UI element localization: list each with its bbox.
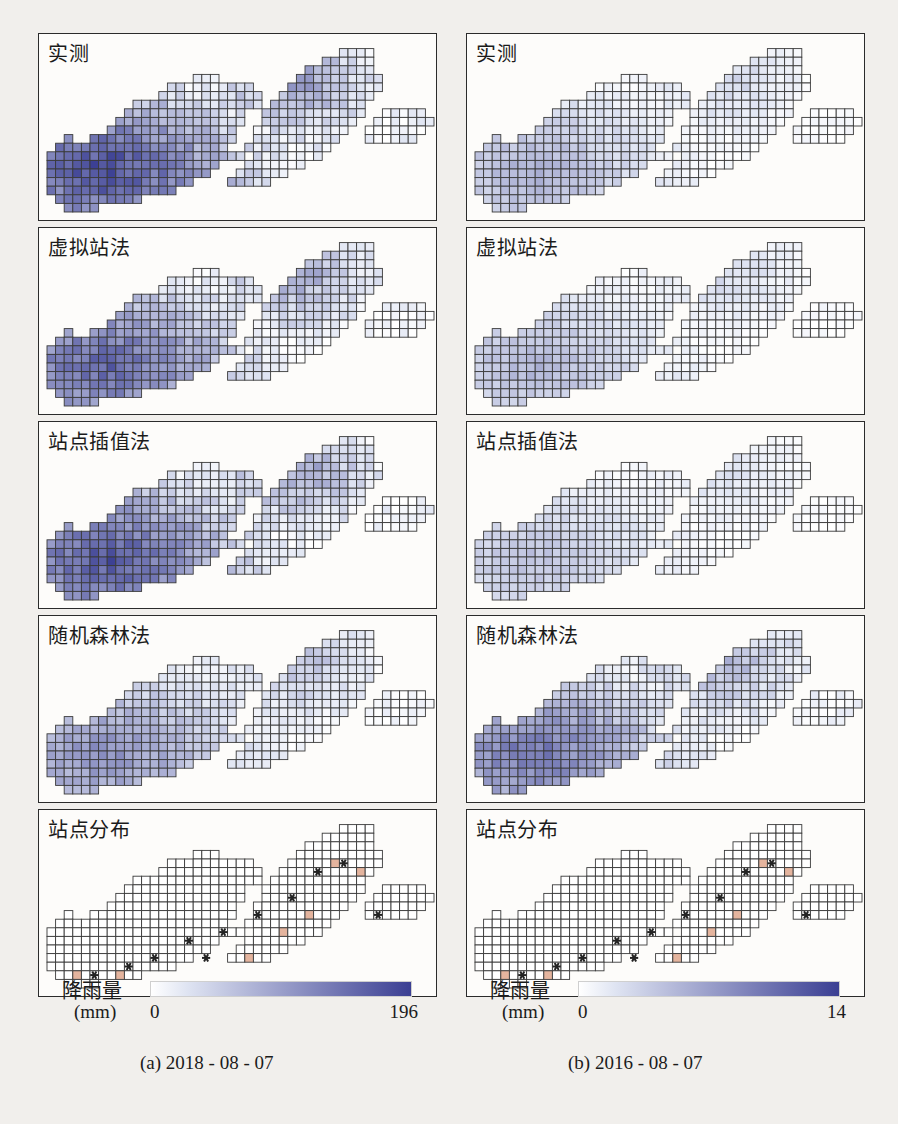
grid-cell (202, 268, 211, 277)
grid-cell (501, 372, 510, 381)
grid-cell (99, 329, 108, 338)
grid-cell (828, 691, 837, 700)
grid-cell (802, 320, 811, 329)
grid-cell (759, 708, 768, 717)
grid-cell (690, 117, 699, 126)
grid-cell (262, 372, 271, 381)
grid-cell (664, 303, 673, 312)
grid-cell (322, 911, 331, 920)
grid-cell (561, 583, 570, 592)
grid-cell (107, 363, 116, 372)
grid-cell (296, 717, 305, 726)
grid-cell (724, 919, 733, 928)
grid-cell (253, 725, 262, 734)
grid-cell (331, 833, 340, 842)
grid-cell (322, 480, 331, 489)
grid-cell (759, 117, 768, 126)
grid-cell (810, 497, 819, 506)
grid-cell (228, 135, 237, 144)
grid-cell (810, 329, 819, 338)
grid-cell (750, 725, 759, 734)
grid-cell (271, 117, 280, 126)
grid-cell (331, 454, 340, 463)
grid-cell (288, 294, 297, 303)
grid-cell (527, 936, 536, 945)
grid-cell (733, 260, 742, 269)
grid-cell (81, 363, 90, 372)
grid-cell (202, 557, 211, 566)
grid-cell (90, 751, 99, 760)
grid-cell (365, 268, 374, 277)
grid-cell (570, 380, 579, 389)
grid-cell (176, 514, 185, 523)
grid-cell (81, 203, 90, 212)
grid-cell (707, 868, 716, 877)
grid-cell (621, 462, 630, 471)
grid-cell (492, 768, 501, 777)
grid-cell (492, 548, 501, 557)
grid-cell (561, 540, 570, 549)
grid-cell (664, 859, 673, 868)
grid-cell (417, 126, 426, 135)
grid-cell (664, 83, 673, 92)
grid-cell (331, 708, 340, 717)
grid-cell (210, 505, 219, 514)
grid-cell (759, 893, 768, 902)
grid-cell (690, 178, 699, 187)
grid-cell (767, 682, 776, 691)
grid-cell (193, 311, 202, 320)
grid-cell (245, 936, 254, 945)
grid-cell (793, 911, 802, 920)
grid-cell (314, 699, 323, 708)
grid-cell (202, 143, 211, 152)
grid-cell (501, 380, 510, 389)
grid-cell (47, 178, 56, 187)
grid-cell (142, 169, 151, 178)
grid-cell (331, 876, 340, 885)
grid-cell (176, 277, 185, 286)
grid-cell (305, 885, 314, 894)
grid-cell (492, 742, 501, 751)
grid-cell (767, 631, 776, 640)
column-b: 实测虚拟站法站点插值法随机森林法站点分布 (466, 33, 865, 1003)
grid-cell (561, 135, 570, 144)
grid-cell (630, 337, 639, 346)
grid-cell (621, 169, 630, 178)
grid-cell (552, 311, 561, 320)
grid-cell (210, 902, 219, 911)
grid-cell (236, 497, 245, 506)
grid-cell (73, 574, 82, 583)
grid-cell (518, 548, 527, 557)
grid-cell (552, 505, 561, 514)
grid-cell (391, 505, 400, 514)
grid-cell (793, 251, 802, 260)
grid-cell (167, 876, 176, 885)
grid-cell (699, 505, 708, 514)
grid-cell (638, 152, 647, 161)
grid-cell (785, 868, 794, 877)
legend-min-value: 0 (578, 1001, 588, 1023)
grid-cell (107, 777, 116, 786)
grid-cell (621, 160, 630, 169)
grid-cell (339, 885, 348, 894)
grid-cell (107, 708, 116, 717)
grid-cell (167, 277, 176, 286)
grid-cell (142, 691, 151, 700)
grid-cell (210, 548, 219, 557)
grid-cell (475, 354, 484, 363)
grid-cell (819, 885, 828, 894)
grid-cell (185, 945, 194, 954)
grid-cell (630, 143, 639, 152)
grid-cell (767, 286, 776, 295)
grid-cell (176, 303, 185, 312)
grid-cell (638, 540, 647, 549)
grid-cell (509, 936, 518, 945)
grid-cell (570, 186, 579, 195)
grid-cell (776, 117, 785, 126)
grid-cell (142, 954, 151, 963)
grid-cell (673, 92, 682, 101)
grid-cell (759, 833, 768, 842)
grid-cell (475, 346, 484, 355)
grid-cell (621, 337, 630, 346)
grid-cell (699, 682, 708, 691)
